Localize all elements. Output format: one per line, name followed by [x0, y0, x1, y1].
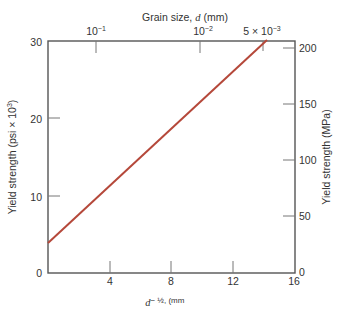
right-axis-title: Yield strength (MPa)	[320, 109, 332, 204]
bottom-tick-label: 8	[168, 275, 174, 287]
bottom-axis-title: d− ½, (mm )	[145, 296, 191, 308]
left-tick-label: 30	[30, 36, 42, 48]
left-tick-label: 20	[30, 113, 42, 125]
bottom-tick-label: 12	[227, 275, 239, 287]
data-line	[48, 40, 267, 243]
left-axis-title: Yield strength (psi × 103)	[6, 100, 18, 215]
top-tick-label: 10−1	[86, 25, 106, 37]
right-tick-label: 150	[299, 98, 317, 110]
top-tick-label: 10−2	[193, 25, 213, 37]
right-tick-label: 100	[299, 154, 317, 166]
right-tick-label: 200	[299, 42, 317, 54]
bottom-tick-label: 16	[288, 275, 300, 287]
left-tick-label: 0	[36, 267, 42, 279]
plot-frame	[48, 41, 295, 273]
top-tick-label: 5 × 10−3	[243, 25, 281, 37]
bottom-tick-label: 4	[107, 275, 113, 287]
chart: Grain size, d (mm) 10−1 10−2 5 × 10−3 0 …	[0, 0, 342, 316]
left-tick-label: 10	[30, 191, 42, 203]
right-tick-label: 50	[299, 210, 311, 222]
right-tick-label: 0	[299, 266, 305, 278]
top-axis-title: Grain size, d (mm)	[142, 11, 228, 23]
